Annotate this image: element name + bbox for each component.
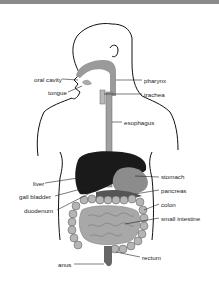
label-colon: colon (161, 201, 176, 208)
label-anus: anus (58, 261, 71, 268)
label-gall-bladder: gall bladder (19, 193, 51, 200)
digestive-system-illustration (0, 0, 219, 288)
tongue-shape (82, 80, 92, 85)
label-pancreas: pancreas (161, 187, 186, 194)
label-oral-cavity: oral cavity (34, 76, 62, 83)
label-pharynx: pharynx (144, 77, 166, 84)
label-small-intestine: small intestine (161, 215, 200, 222)
label-stomach: stomach (161, 173, 184, 180)
label-rectum: rectum (142, 254, 161, 261)
rectum-shape (104, 246, 112, 266)
label-liver: liver (33, 180, 44, 187)
oral-pharynx (76, 60, 116, 96)
label-duodenum: duodenum (24, 207, 53, 214)
label-esophagus: esophagus (124, 119, 154, 126)
trachea-tube (100, 90, 105, 104)
label-tongue: tongue (48, 89, 67, 96)
label-trachea: trachea (144, 91, 165, 98)
small-intestine-shape (79, 206, 140, 245)
